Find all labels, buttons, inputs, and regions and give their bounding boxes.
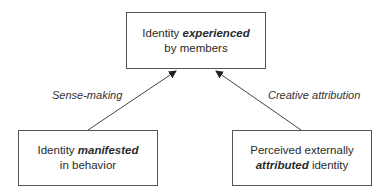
creative-attribution-label: Creative attribution [268, 89, 360, 101]
top-box-emphasis: experienced [183, 27, 250, 39]
identity-manifested-box: Identity manifested in behavior [18, 130, 158, 186]
top-box-line1: Identity experienced [142, 26, 249, 41]
left-box-line1: Identity manifested [38, 143, 139, 158]
right-box-suffix: identity [309, 159, 349, 171]
right-box-emphasis: attributed [256, 159, 309, 171]
left-box-emphasis: manifested [78, 144, 139, 156]
identity-experienced-box: Identity experienced by members [126, 12, 266, 69]
attributed-identity-box: Perceived externally attributed identity [232, 130, 372, 186]
right-box-line2: attributed identity [256, 158, 349, 173]
sense-making-label: Sense-making [52, 89, 122, 101]
right-box-line1: Perceived externally [250, 143, 354, 158]
top-box-prefix: Identity [142, 27, 182, 39]
left-box-prefix: Identity [38, 144, 78, 156]
left-box-line2: in behavior [60, 158, 116, 173]
top-box-line2: by members [164, 41, 227, 56]
